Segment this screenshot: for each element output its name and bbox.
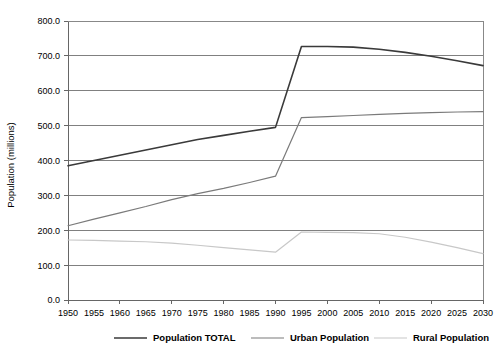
x-tick-label: 2000 [317,308,337,318]
y-tick-label: 0.0 [47,295,60,305]
chart-legend: Population TOTALUrban PopulationRural Po… [114,332,489,343]
x-tick-label: 1985 [240,308,260,318]
y-tick-label: 400.0 [37,156,60,166]
y-tick-label: 100.0 [37,261,60,271]
legend-label-rural-population: Rural Population [413,332,489,343]
x-tick-label: 1965 [136,308,156,318]
x-tick-label: 1980 [214,308,234,318]
y-axis-label-group: Population (millions) [5,122,16,208]
x-tick-label: 2010 [369,308,389,318]
x-tick-label: 1950 [58,308,78,318]
x-tick-label: 1990 [265,308,285,318]
x-tick-label: 2005 [343,308,363,318]
x-tick-label: 2020 [421,308,441,318]
chart-background [0,0,502,359]
population-line-chart: 0.0100.0200.0300.0400.0500.0600.0700.080… [0,0,502,359]
y-tick-label: 500.0 [37,121,60,131]
y-tick-label: 600.0 [37,86,60,96]
x-tick-label: 2025 [447,308,467,318]
y-axis-label: Population (millions) [5,122,16,208]
chart-canvas: 0.0100.0200.0300.0400.0500.0600.0700.080… [0,0,502,359]
x-tick-label: 2015 [395,308,415,318]
x-tick-label: 1960 [110,308,130,318]
legend-label-population-total: Population TOTAL [153,332,236,343]
x-tick-label: 1975 [188,308,208,318]
x-tick-labels-group: 1950195519601965197019751980198519901995… [58,308,493,318]
legend-label-urban-population: Urban Population [290,332,369,343]
x-tick-label: 1955 [84,308,104,318]
y-tick-label: 300.0 [37,191,60,201]
x-tick-label: 2030 [473,308,493,318]
y-tick-label: 700.0 [37,51,60,61]
y-tick-label: 800.0 [37,16,60,26]
y-tick-label: 200.0 [37,226,60,236]
x-tick-label: 1970 [162,308,182,318]
y-tick-labels-group: 0.0100.0200.0300.0400.0500.0600.0700.080… [37,16,60,305]
x-tick-label: 1995 [291,308,311,318]
